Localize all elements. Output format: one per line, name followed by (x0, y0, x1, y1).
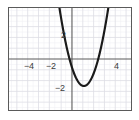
plot-area: −4 −2 4 2 −2 (8, 7, 132, 111)
y-tick-label-neg2: −2 (55, 84, 65, 93)
x-tick-label-neg2: −2 (46, 62, 56, 71)
tick-label-layer: −4 −2 4 2 −2 (9, 8, 131, 110)
x-tick-label-pos4: 4 (114, 62, 119, 71)
x-tick-label-neg4: −4 (24, 62, 34, 71)
graph-figure: −4 −2 4 2 −2 (0, 0, 139, 120)
y-tick-label-pos2: 2 (61, 31, 66, 40)
